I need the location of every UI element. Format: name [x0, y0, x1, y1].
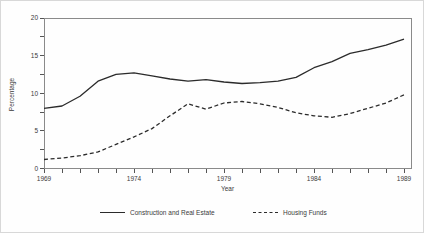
solid-line-sample [100, 212, 125, 213]
y-tick-label: 5 [34, 127, 38, 134]
legend-label-housing: Housing Funds [283, 209, 327, 216]
legend-label-construction: Construction and Real Estate [130, 209, 215, 216]
series-line-housing-funds [44, 95, 404, 160]
y-tick-label: 0 [34, 165, 38, 172]
x-tick-label: 1979 [217, 175, 232, 182]
x-tick-label: 1974 [127, 175, 142, 182]
x-tick-label: 1969 [37, 175, 52, 182]
x-axis-title: Year [44, 185, 411, 192]
dashed-line-sample [253, 212, 278, 213]
y-tick-label: 20 [31, 14, 39, 21]
legend-item-construction: Construction and Real Estate [100, 207, 215, 217]
chart-canvas: 1969197419791984198905101520 [1, 1, 424, 233]
plot-frame [44, 18, 411, 169]
legend-item-housing: Housing Funds [253, 207, 327, 217]
y-tick-label: 10 [31, 90, 39, 97]
y-tick-label: 15 [31, 52, 39, 59]
x-tick-label: 1984 [307, 175, 322, 182]
y-axis-title: Percentage [7, 71, 16, 119]
line-chart-figure: 1969197419791984198905101520 Percentage … [0, 0, 424, 233]
x-tick-label: 1989 [397, 175, 412, 182]
series-line-construction-real-estate [44, 39, 404, 108]
